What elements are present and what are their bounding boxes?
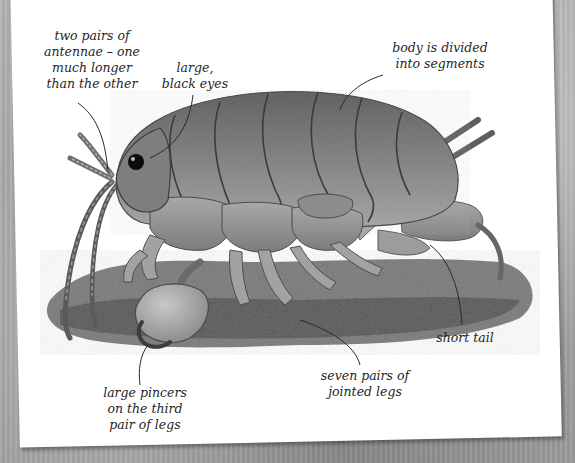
label-legs: seven pairs of jointed legs <box>310 368 420 400</box>
label-pincers: large pincers on the third pair of legs <box>90 385 200 433</box>
eye <box>128 154 144 170</box>
label-antennae: two pairs of antennae – one much longer … <box>22 28 162 92</box>
label-segments: body is divided into segments <box>380 40 500 72</box>
body <box>110 90 470 252</box>
label-tail: short tail <box>425 330 505 346</box>
label-eyes: large, black eyes <box>150 60 240 92</box>
diagram: two pairs of antennae – one much longer … <box>0 0 575 463</box>
